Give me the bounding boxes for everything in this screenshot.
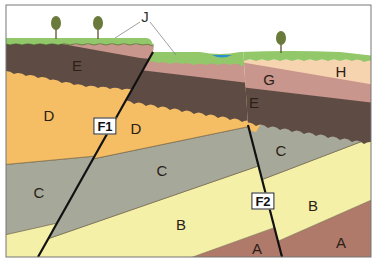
label-D-mid: D — [131, 121, 142, 136]
label-C-mid: C — [157, 163, 168, 178]
label-D-left: D — [44, 108, 55, 123]
label-E-mid: E — [249, 95, 259, 110]
label-F2: F2 — [251, 193, 274, 210]
label-B-mid: B — [176, 217, 186, 232]
label-A-mid: A — [252, 241, 262, 256]
tree-icon — [93, 16, 103, 39]
label-B-right: B — [308, 198, 318, 213]
label-H: H — [336, 64, 347, 79]
label-G: G — [263, 72, 275, 87]
label-E-left: E — [72, 58, 82, 73]
tree-icon — [276, 31, 286, 53]
J-leader-right — [150, 22, 176, 55]
cross-section-diagram: J E E G H D D C C C B B A A F1 F2 — [0, 0, 376, 263]
label-A-right: A — [336, 235, 346, 250]
label-J: J — [141, 8, 149, 25]
tree-icon — [51, 16, 61, 39]
label-F1: F1 — [93, 118, 116, 135]
label-C-left: C — [34, 185, 45, 200]
label-C-right: C — [276, 143, 287, 158]
J-leader-left — [115, 22, 140, 38]
